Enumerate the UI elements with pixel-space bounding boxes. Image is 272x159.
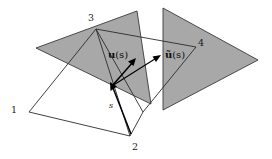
vertex-label-1: 1 xyxy=(11,104,17,115)
edge-2-2-link xyxy=(130,112,143,136)
left-shaded-triangle xyxy=(36,11,151,104)
vector-u-argument: (s) xyxy=(115,49,128,60)
vector-u-tilde-argument: (s) xyxy=(172,49,185,60)
figure-canvas: 1 2 3 4 s u(s) ũ(s) xyxy=(0,0,272,159)
edge-1-2 xyxy=(29,112,130,136)
vector-u-symbol: u xyxy=(108,49,115,60)
vector-u-tilde-label: ũ(s) xyxy=(165,49,185,60)
vector-u-tilde-arrowhead xyxy=(153,55,162,62)
diagram-svg: 1 2 3 4 s u(s) ũ(s) xyxy=(0,0,272,159)
point-s-label: s xyxy=(109,101,113,110)
vector-u-tilde-symbol: ũ xyxy=(165,49,172,60)
vertex-label-4: 4 xyxy=(198,37,204,48)
shaded-faces-group xyxy=(36,8,258,110)
vertex-label-3: 3 xyxy=(88,12,94,23)
vector-s-shaft xyxy=(113,88,131,134)
vertex-label-2: 2 xyxy=(132,141,138,152)
vector-u-label: u(s) xyxy=(108,49,128,60)
